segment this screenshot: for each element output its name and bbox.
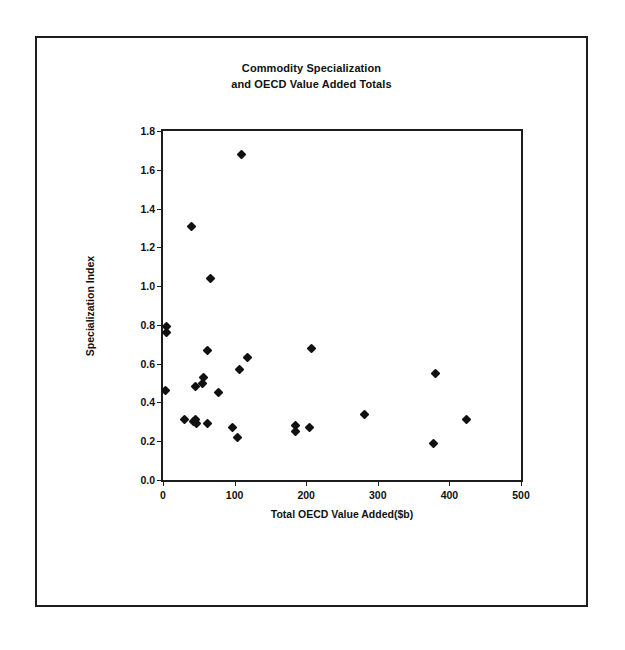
y-axis-tick-label: 1.4	[140, 203, 155, 215]
x-axis-tick-label: 500	[512, 489, 530, 501]
x-axis-tick	[378, 480, 379, 486]
data-point	[235, 365, 245, 375]
y-axis-tick	[157, 325, 163, 326]
x-axis-tick-label: 300	[369, 489, 387, 501]
data-point	[161, 386, 171, 396]
y-axis-tick	[157, 286, 163, 287]
data-point	[192, 419, 202, 429]
chart-title-line-1: Commodity Specialization	[37, 60, 586, 76]
y-axis-tick-label: 1.0	[140, 280, 155, 292]
chart-title-line-2: and OECD Value Added Totals	[37, 76, 586, 92]
data-point	[187, 221, 197, 231]
x-axis-tick-label: 0	[160, 489, 166, 501]
data-point	[202, 345, 212, 355]
data-point	[214, 388, 224, 398]
data-point	[202, 419, 212, 429]
data-point	[305, 423, 315, 433]
y-axis-tick-label: 0.4	[140, 396, 155, 408]
x-axis-tick-label: 200	[297, 489, 315, 501]
x-axis-title: Total OECD Value Added($b)	[161, 508, 523, 520]
y-axis-tick-label: 1.2	[140, 241, 155, 253]
x-axis-tick-label: 400	[441, 489, 459, 501]
y-axis-tick	[157, 170, 163, 171]
y-axis-tick	[157, 247, 163, 248]
data-point	[291, 427, 301, 437]
data-point	[462, 415, 472, 425]
data-point	[237, 149, 247, 159]
y-axis-tick-label: 1.8	[140, 125, 155, 137]
y-axis-tick-label: 1.6	[140, 164, 155, 176]
x-axis-tick	[521, 480, 522, 486]
y-axis-tick	[157, 364, 163, 365]
plot-area: 0.00.20.40.60.81.01.21.41.61.80100200300…	[161, 129, 523, 482]
data-point	[162, 328, 172, 338]
x-axis-tick	[306, 480, 307, 486]
y-axis-title-text: Specialization Index	[84, 255, 96, 355]
y-axis-tick-label: 0.8	[140, 319, 155, 331]
data-point	[233, 432, 243, 442]
data-point	[429, 438, 439, 448]
data-point	[227, 423, 237, 433]
x-axis-tick	[235, 480, 236, 486]
scatter-series	[163, 131, 521, 480]
y-axis-tick	[157, 402, 163, 403]
data-point	[359, 409, 369, 419]
x-axis-tick	[163, 480, 164, 486]
figure-frame: Commodity Specialization and OECD Value …	[35, 36, 588, 607]
y-axis-title: Specialization Index	[82, 129, 98, 482]
y-axis-tick	[157, 441, 163, 442]
data-point	[206, 273, 216, 283]
data-point	[243, 353, 253, 363]
data-point	[180, 415, 190, 425]
data-point	[431, 368, 441, 378]
chart-title: Commodity Specialization and OECD Value …	[37, 60, 586, 92]
y-axis-tick	[157, 131, 163, 132]
y-axis-tick-label: 0.0	[140, 474, 155, 486]
data-point	[307, 343, 317, 353]
x-axis-tick	[449, 480, 450, 486]
x-axis-tick-label: 100	[226, 489, 244, 501]
y-axis-tick-label: 0.6	[140, 358, 155, 370]
y-axis-tick	[157, 209, 163, 210]
y-axis-tick-label: 0.2	[140, 435, 155, 447]
